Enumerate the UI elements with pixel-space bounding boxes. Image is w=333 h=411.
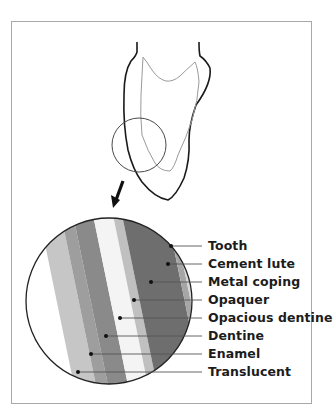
label-dentine: Dentine xyxy=(208,329,264,343)
label-metal-coping: Metal coping xyxy=(208,275,300,289)
label-opaquer: Opaquer xyxy=(208,293,269,307)
label-tooth: Tooth xyxy=(208,239,247,253)
label-enamel: Enamel xyxy=(208,347,260,361)
label-cement-lute: Cement lute xyxy=(208,257,295,271)
label-translucent: Translucent xyxy=(208,365,291,379)
label-opacious-dentine: Opacious dentine xyxy=(208,311,333,325)
